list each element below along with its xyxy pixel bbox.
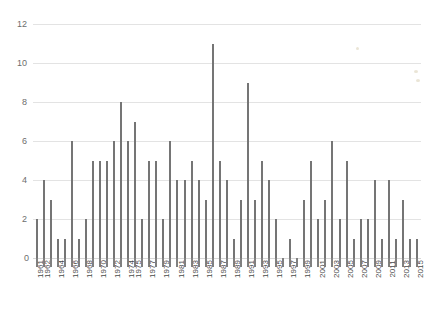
bar: [247, 83, 249, 259]
bar-slot: [385, 24, 392, 258]
x-axis-tick: [92, 258, 94, 267]
x-axis-slot: 2006: [350, 258, 357, 311]
x-axis-slot: 1967: [75, 258, 82, 311]
x-axis-slot: 1979: [160, 258, 167, 311]
y-axis-tick-label: 12: [17, 20, 27, 29]
bar-slot: [188, 24, 195, 258]
x-axis-slot: 1987: [216, 258, 223, 311]
x-axis-slot: 1968: [82, 258, 89, 311]
x-axis-slot: 1971: [103, 258, 110, 311]
bar-slot: [301, 24, 308, 258]
bar: [353, 239, 355, 259]
bar: [184, 180, 186, 258]
bar: [92, 161, 94, 259]
x-axis-tick: [106, 258, 108, 267]
bar-slot: [181, 24, 188, 258]
bar-slot: [273, 24, 280, 258]
x-axis-tick: [198, 258, 200, 267]
y-axis-tick-label: 8: [22, 98, 27, 107]
bar-slot: [132, 24, 139, 258]
bar: [367, 219, 369, 258]
bar: [317, 219, 319, 258]
bar: [198, 180, 200, 258]
x-axis-slot: 1977: [146, 258, 153, 311]
bar: [374, 180, 376, 258]
bar: [162, 219, 164, 258]
bar-slot: [153, 24, 160, 258]
bar: [148, 161, 150, 259]
bar-slot: [230, 24, 237, 258]
bar: [169, 141, 171, 258]
bar-slot: [89, 24, 96, 258]
bar: [99, 161, 101, 259]
x-axis-tick: [254, 258, 256, 267]
bar-slot: [357, 24, 364, 258]
x-axis-tick: [339, 258, 341, 267]
x-axis-tick: [141, 258, 143, 267]
x-axis-slot: 2001: [315, 258, 322, 311]
x-axis-tick: [296, 258, 298, 267]
x-axis-slot: 1982: [181, 258, 188, 311]
bar-chart: 24681012 1961196219631964196519661967196…: [0, 0, 441, 311]
x-axis-slot: 1981: [174, 258, 181, 311]
x-axis-slot: 2005: [343, 258, 350, 311]
bar-slot: [61, 24, 68, 258]
x-axis-tick: [310, 258, 312, 267]
x-axis-slot: 1992: [251, 258, 258, 311]
x-axis-slot: 1974: [125, 258, 132, 311]
bar-slot: [75, 24, 82, 258]
y-axis-tick-label: 4: [22, 176, 27, 185]
x-axis-slot: 1969: [89, 258, 96, 311]
x-axis-slot: 2004: [336, 258, 343, 311]
x-axis-slot: 2003: [329, 258, 336, 311]
bar: [120, 102, 122, 258]
bar-slot: [371, 24, 378, 258]
bar: [339, 219, 341, 258]
bar: [57, 239, 59, 259]
bar: [155, 161, 157, 259]
bar-slot: [82, 24, 89, 258]
bar-slot: [287, 24, 294, 258]
bar: [64, 239, 66, 259]
bar-slot: [364, 24, 371, 258]
x-axis-slot: 1980: [167, 258, 174, 311]
speck-artifact: [356, 47, 359, 50]
bar-slot: [399, 24, 406, 258]
bar-slot: [343, 24, 350, 258]
bar-slot: [125, 24, 132, 258]
bar-slot: [139, 24, 146, 258]
bar: [289, 239, 291, 259]
x-axis-slot: 1993: [259, 258, 266, 311]
x-axis-tick: [367, 258, 369, 267]
bar-slot: [322, 24, 329, 258]
bar: [219, 161, 221, 259]
x-axis-tick: [64, 258, 66, 267]
x-axis-slot: 1986: [209, 258, 216, 311]
x-axis-slot: 1973: [118, 258, 125, 311]
bar-slot: [329, 24, 336, 258]
bar-slot: [237, 24, 244, 258]
bar-slot: [259, 24, 266, 258]
bar: [71, 141, 73, 258]
x-axis-slot: 1961: [33, 258, 40, 311]
x-axis-slot: 2013: [399, 258, 406, 311]
bar-slot: [103, 24, 110, 258]
bar: [261, 161, 263, 259]
x-axis-slot: 1990: [237, 258, 244, 311]
bar-slot: [244, 24, 251, 258]
x-axis-slot: 1965: [61, 258, 68, 311]
x-axis-slot: 1988: [223, 258, 230, 311]
bar: [134, 122, 136, 259]
x-axis-slot: 1966: [68, 258, 75, 311]
x-axis-slot: 2002: [322, 258, 329, 311]
bar: [275, 219, 277, 258]
bar-slot: [414, 24, 421, 258]
y-axis-tick-label: 2: [22, 215, 27, 224]
speck-artifact: [416, 79, 420, 82]
x-axis-slot: 1970: [96, 258, 103, 311]
bar-slot: [209, 24, 216, 258]
x-axis-tick: [169, 258, 171, 267]
bar: [360, 219, 362, 258]
x-axis-slot: 1991: [244, 258, 251, 311]
x-axis-slot: 1964: [54, 258, 61, 311]
